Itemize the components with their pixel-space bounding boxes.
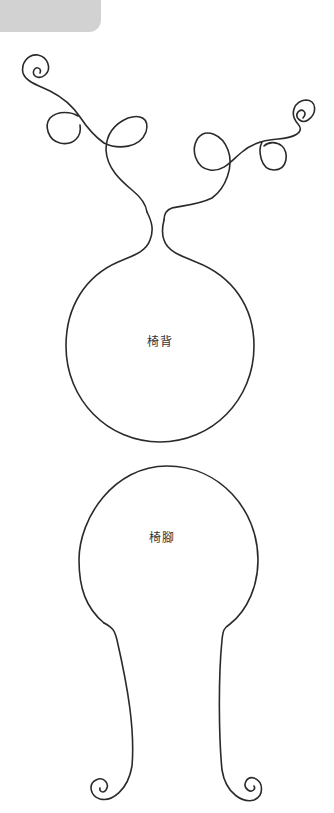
chair-leg-left	[91, 623, 133, 799]
chair-back-left-loop	[47, 113, 80, 144]
chair-back-label: 椅背	[147, 332, 172, 349]
chair-leg-body	[79, 466, 262, 801]
chair-leg-label: 椅腳	[149, 528, 174, 545]
chair-back-right-vine	[164, 100, 315, 220]
chair-back-left-vine	[23, 55, 147, 212]
pattern-outlines	[0, 0, 334, 813]
chair-back-right-loop	[260, 142, 286, 170]
chair-back-body	[66, 212, 254, 442]
